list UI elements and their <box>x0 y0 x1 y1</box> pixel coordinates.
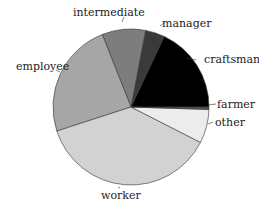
label-employee: employee <box>16 60 69 73</box>
label-other: other <box>215 116 245 129</box>
label-farmer: farmer <box>217 98 255 111</box>
label-worker: worker <box>101 189 141 202</box>
label-craftsman: craftsman <box>204 53 259 66</box>
label-intermediate: intermediate <box>73 6 145 19</box>
label-manager: manager <box>162 17 211 30</box>
